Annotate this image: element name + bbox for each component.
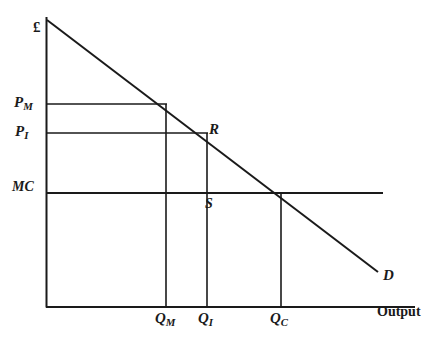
quantity-monopoly-base: Q	[155, 310, 166, 326]
price-monopoly-subscript: M	[23, 100, 33, 112]
demand-curve-label: D	[383, 268, 394, 283]
diagram-lines	[0, 0, 432, 346]
price-intermediate-label: PI	[15, 124, 28, 139]
quantity-monopoly-label: QM	[155, 311, 175, 326]
quantity-competitive-subscript: C	[281, 316, 288, 328]
quantity-intermediate-label: QI	[198, 311, 213, 326]
price-intermediate-base: P	[15, 123, 24, 139]
quantity-monopoly-subscript: M	[166, 316, 176, 328]
y-axis-currency-label: £	[33, 20, 41, 35]
quantity-competitive-label: QC	[270, 311, 288, 326]
point-s-label: S	[205, 197, 213, 211]
quantity-intermediate-base: Q	[198, 310, 209, 326]
x-axis-output-label: Output	[377, 305, 421, 319]
price-monopoly-base: P	[14, 94, 23, 110]
economics-diagram-canvas: £ PM PI MC R S D QM QI QC Output	[0, 0, 432, 346]
price-intermediate-subscript: I	[24, 129, 28, 141]
quantity-competitive-base: Q	[270, 310, 281, 326]
price-monopoly-label: PM	[14, 95, 33, 110]
demand-curve	[47, 20, 378, 272]
marginal-cost-label: MC	[12, 180, 34, 194]
quantity-intermediate-subscript: I	[209, 316, 213, 328]
point-r-label: R	[209, 122, 219, 137]
